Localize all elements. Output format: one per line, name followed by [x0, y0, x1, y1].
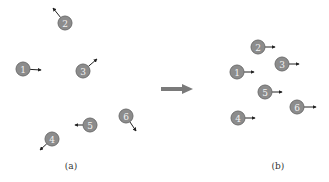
agent-label: 1 [20, 65, 26, 75]
agent-label: 2 [62, 19, 68, 29]
agent-node-5: 5 [75, 118, 97, 132]
flocking-diagram: 123456(a)123456(b) [0, 0, 329, 182]
agent-label: 1 [234, 68, 240, 78]
agent-node-2: 2 [251, 40, 275, 54]
agent-label: 3 [279, 60, 285, 70]
agent-label: 5 [87, 121, 93, 131]
agent-label: 3 [80, 67, 86, 77]
velocity-arrow-icon [130, 122, 136, 131]
agent-node-3: 3 [275, 57, 299, 71]
panel-caption: (a) [65, 161, 77, 171]
agent-label: 5 [262, 88, 268, 98]
panel-caption: (b) [272, 161, 285, 171]
agent-node-4: 4 [231, 111, 255, 125]
transition-arrow-icon [161, 84, 193, 94]
agent-label: 6 [123, 112, 129, 122]
agent-node-6: 6 [290, 100, 316, 114]
agent-node-3: 3 [76, 59, 97, 78]
agent-node-4: 4 [40, 132, 59, 150]
velocity-arrow-icon [30, 69, 41, 70]
panel-a: 123456(a) [16, 8, 136, 171]
agent-node-6: 6 [119, 109, 136, 131]
velocity-arrow-icon [88, 59, 97, 66]
velocity-arrow-icon [53, 8, 61, 18]
agent-node-1: 1 [230, 65, 254, 79]
agent-node-5: 5 [258, 85, 282, 99]
velocity-arrow-icon [40, 144, 47, 150]
agent-label: 6 [294, 103, 300, 113]
agent-node-2: 2 [53, 8, 72, 30]
agent-label: 2 [255, 43, 261, 53]
panel-b: 123456(b) [230, 40, 316, 171]
agent-label: 4 [49, 135, 55, 145]
agent-node-1: 1 [16, 62, 41, 76]
agent-label: 4 [235, 114, 241, 124]
